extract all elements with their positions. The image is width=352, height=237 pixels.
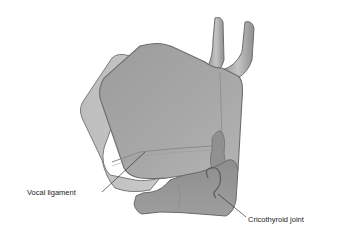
larynx-diagram: Vocal ligament Cricothyroid joint	[0, 0, 352, 237]
larynx-illustration	[0, 0, 352, 237]
vocal-ligament-label: Vocal ligament	[27, 189, 76, 197]
cricothyroid-joint-label: Cricothyroid joint	[248, 216, 304, 224]
